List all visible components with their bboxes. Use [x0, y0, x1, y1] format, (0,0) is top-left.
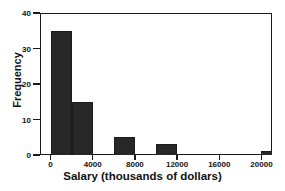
y-axis-tick-label: 20	[0, 80, 31, 89]
x-axis-tick-label: 20000	[231, 160, 285, 169]
y-axis-tick-mark	[33, 12, 40, 13]
histogram-bar	[51, 31, 72, 155]
y-axis-tick-mark	[33, 119, 40, 120]
y-axis-tick-mark	[33, 83, 40, 84]
bars-layer	[40, 13, 272, 155]
histogram-bar	[114, 137, 135, 155]
y-axis-tick-label: 0	[0, 151, 31, 160]
x-axis-label: Salary (thousands of dollars)	[0, 170, 285, 182]
y-axis-tick-label: 30	[0, 44, 31, 53]
y-axis-tick-label: 40	[0, 9, 31, 18]
histogram-bar	[261, 151, 272, 155]
y-axis-tick-label: 10	[0, 115, 31, 124]
y-axis-tick-mark	[33, 48, 40, 49]
histogram-bar	[156, 144, 177, 155]
y-axis-tick-mark	[33, 154, 40, 155]
histogram-bar	[72, 102, 93, 155]
histogram-figure: Frequency 010203040 04000800012000160002…	[0, 0, 285, 191]
